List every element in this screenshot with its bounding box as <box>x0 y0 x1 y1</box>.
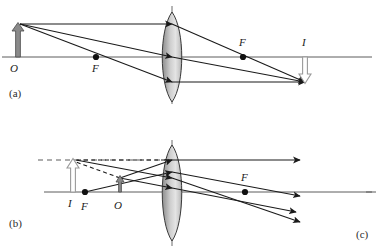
ray-centre-incident-a <box>20 24 172 57</box>
image-label-a: I <box>301 36 307 48</box>
panel-a: O F F I (a) <box>2 6 372 104</box>
image-label-b: I <box>67 197 73 209</box>
focal-point-left-b <box>82 189 88 195</box>
ray-diagram-figure: O F F I (a) <box>0 0 376 247</box>
focal-label-left-a: F <box>91 62 99 74</box>
focal-point-right-b <box>242 189 248 195</box>
panel-label-c: (c) <box>356 228 369 241</box>
focal-label-left-b: F <box>80 200 88 212</box>
focal-label-right-a: F <box>238 36 246 48</box>
focal-point-right-a <box>240 54 246 60</box>
focal-label-right-b: F <box>240 171 248 183</box>
panel-label-b: (b) <box>9 217 22 230</box>
panel-c: (c) <box>356 192 376 241</box>
image-arrow-b <box>67 159 79 193</box>
object-arrow-a <box>12 23 24 58</box>
ray-image-tip-refracted-b <box>172 178 300 222</box>
ray-centre-refracted-a <box>172 57 305 82</box>
ray-image-tip-to-lens-b <box>76 160 172 178</box>
object-label-b: O <box>114 199 122 211</box>
panel-label-a: (a) <box>9 87 22 100</box>
figure-canvas: O F F I (a) <box>0 0 376 247</box>
object-label-a: O <box>10 62 18 74</box>
image-arrow-a <box>299 57 311 84</box>
panel-b: I F O F (b) <box>9 140 372 246</box>
focal-point-left-a <box>93 54 99 60</box>
ray-parallel-refracted-a <box>172 24 305 82</box>
